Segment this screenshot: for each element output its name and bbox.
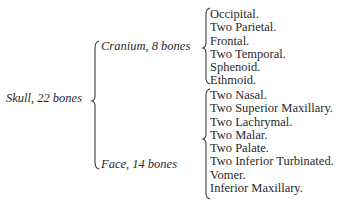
list-item: Vomer. — [210, 169, 334, 182]
list-item: Ethmoid. — [210, 74, 286, 87]
group-label-face: Face, 14 bones — [101, 157, 177, 172]
list-item: Two Lachrymal. — [210, 116, 334, 129]
list-item: Inferior Maxillary. — [210, 182, 334, 195]
cranium-bone-list: Occipital. Two Parietal. Frontal. Two Te… — [210, 8, 286, 88]
face-bone-list: Two Nasal. Two Superior Maxillary. Two L… — [210, 89, 334, 195]
list-item: Two Parietal. — [210, 21, 286, 34]
list-item: Two Inferior Turbinated. — [210, 155, 334, 168]
list-item: Two Temporal. — [210, 48, 286, 61]
list-item: Frontal. — [210, 35, 286, 48]
group-label-cranium: Cranium, 8 bones — [101, 39, 190, 54]
root-brace — [92, 40, 102, 170]
root-label: Skull, 22 bones — [6, 91, 82, 106]
list-item: Two Palate. — [210, 142, 334, 155]
list-item: Occipital. — [210, 8, 286, 21]
list-item: Two Nasal. — [210, 89, 334, 102]
list-item: Two Malar. — [210, 129, 334, 142]
list-item: Sphenoid. — [210, 61, 286, 74]
list-item: Two Superior Maxillary. — [210, 102, 334, 115]
